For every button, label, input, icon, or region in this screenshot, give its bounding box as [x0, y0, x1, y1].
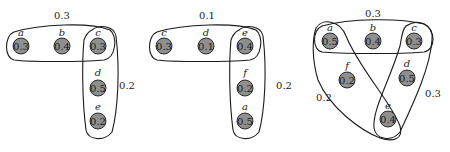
svg-text:c: c: [95, 27, 101, 38]
weight-label: 0.3: [425, 88, 441, 99]
figure-caption: [0, 146, 450, 152]
weight-label: 0.2: [119, 80, 135, 91]
svg-text:d: d: [404, 58, 410, 69]
svg-text:0.4: 0.4: [237, 41, 253, 52]
svg-text:d: d: [203, 27, 209, 38]
svg-text:c: c: [161, 27, 167, 38]
node-e: e 0.4: [380, 100, 396, 127]
svg-text:0.2: 0.2: [90, 116, 106, 127]
svg-text:0.3: 0.3: [13, 41, 29, 52]
svg-text:0.3: 0.3: [90, 41, 106, 52]
svg-text:0.5: 0.5: [322, 36, 338, 47]
node-c: c 0.3: [406, 22, 422, 49]
node-b: b 0.4: [54, 27, 70, 54]
svg-text:0.4: 0.4: [365, 36, 381, 47]
svg-text:0.2: 0.2: [339, 75, 355, 86]
node-d: d 0.5: [399, 58, 415, 86]
node-e: e 0.4: [237, 27, 253, 54]
svg-text:0.3: 0.3: [156, 41, 172, 52]
svg-text:e: e: [95, 101, 101, 112]
node-f: f 0.2: [237, 67, 253, 96]
svg-text:e: e: [385, 100, 391, 111]
svg-text:0.5: 0.5: [237, 116, 253, 127]
weight-label: 0.1: [199, 10, 215, 21]
svg-text:a: a: [242, 101, 248, 112]
svg-text:a: a: [18, 27, 24, 38]
node-a: a 0.5: [237, 101, 253, 129]
svg-text:0.4: 0.4: [380, 114, 396, 125]
svg-text:c: c: [411, 22, 417, 33]
weight-label: 0.2: [276, 80, 292, 91]
node-d: d 0.5: [90, 67, 106, 96]
hypergraph-figure: 0.3 0.2 a 0.3 b 0.4 c 0.3 d 0.5 e 0.2: [0, 0, 450, 152]
svg-text:e: e: [242, 27, 248, 38]
node-e: e 0.2: [90, 101, 106, 129]
weight-label: 0.2: [316, 92, 332, 103]
weight-label: 0.3: [365, 8, 381, 19]
node-b: b 0.4: [365, 22, 381, 49]
svg-text:0.5: 0.5: [399, 73, 415, 84]
diagram-1: 0.3 0.2 a 0.3 b 0.4 c 0.3 d 0.5 e 0.2: [7, 10, 135, 139]
svg-text:a: a: [327, 22, 333, 33]
svg-text:b: b: [59, 27, 65, 38]
svg-text:0.1: 0.1: [198, 41, 214, 52]
weight-label: 0.3: [54, 10, 70, 21]
node-a: a 0.5: [322, 22, 338, 49]
svg-text:0.4: 0.4: [54, 41, 70, 52]
svg-text:0.3: 0.3: [406, 36, 422, 47]
node-d: d 0.1: [198, 27, 214, 54]
node-c: c 0.3: [90, 27, 106, 54]
svg-text:b: b: [370, 22, 376, 33]
node-f: f 0.2: [339, 60, 355, 88]
svg-text:f: f: [344, 60, 351, 71]
svg-text:f: f: [242, 67, 249, 78]
diagram-3: 0.3 0.2 0.3 a 0.5 b 0.4 c 0.3 f 0.2 d 0.…: [313, 8, 441, 140]
diagram-2: 0.1 0.2 c 0.3 d 0.1 e 0.4 f 0.2 a 0.5: [150, 10, 292, 139]
svg-text:0.2: 0.2: [237, 83, 253, 94]
svg-text:d: d: [95, 67, 101, 78]
svg-text:0.5: 0.5: [90, 83, 106, 94]
